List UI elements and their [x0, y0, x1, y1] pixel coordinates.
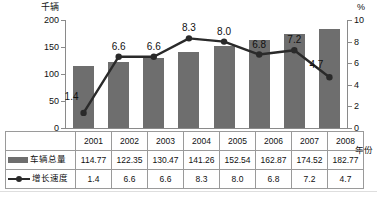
marker-2005 [221, 38, 227, 44]
point-label-2003: 6.6 [143, 41, 165, 52]
point-label-2004: 8.3 [178, 22, 200, 33]
cell-growth-2005: 8.0 [220, 170, 256, 189]
table-row-total-vehicles: 车辆总量 114.77 122.35 130.47 141.26 152.54 … [6, 151, 364, 170]
table-year-2005: 2005 [220, 132, 256, 151]
legend-item-total-vehicles: 车辆总量 [6, 151, 76, 170]
bar-swatch-icon [8, 157, 28, 163]
table-year-2008: 2008 [328, 132, 364, 151]
point-label-2007: 7.2 [283, 34, 305, 45]
cell-total-2006: 162.87 [256, 151, 292, 170]
marker-2003 [151, 54, 157, 60]
cell-growth-2008: 4.7 [328, 170, 364, 189]
legend-label-total-vehicles: 车辆总量 [30, 155, 66, 165]
cell-total-2005: 152.54 [220, 151, 256, 170]
marker-2006 [256, 51, 262, 57]
legend-label-growth-rate: 增长速度 [32, 174, 68, 184]
cell-growth-2001: 1.4 [76, 170, 112, 189]
marker-2004 [186, 35, 192, 41]
marker-2008 [326, 74, 332, 80]
bottom-edge-artifact [0, 191, 377, 192]
table-row-years: 2001 2002 2003 2004 2005 2006 2007 2008 [6, 132, 364, 151]
table-year-2001: 2001 [76, 132, 112, 151]
cell-total-2001: 114.77 [76, 151, 112, 170]
chart-figure: 千辆 % 200 150 100 50 0 10 8 6 4 2 0 [0, 0, 377, 198]
table-corner-cell [6, 132, 76, 151]
marker-2002 [115, 54, 121, 60]
table-year-2006: 2006 [256, 132, 292, 151]
cell-total-2003: 130.47 [148, 151, 184, 170]
point-label-2005: 8.0 [213, 26, 235, 37]
cell-total-2007: 174.52 [292, 151, 328, 170]
point-label-2006: 6.8 [248, 39, 270, 50]
line-marker-swatch-icon [8, 175, 30, 183]
cell-growth-2007: 7.2 [292, 170, 328, 189]
table-year-2007: 2007 [292, 132, 328, 151]
data-table: 2001 2002 2003 2004 2005 2006 2007 2008 … [5, 131, 364, 189]
table-year-2004: 2004 [184, 132, 220, 151]
table-year-2002: 2002 [112, 132, 148, 151]
point-label-2001: 1.4 [61, 91, 83, 102]
point-label-2008: 4.7 [305, 59, 327, 70]
legend-item-growth-rate: 增长速度 [6, 170, 76, 189]
cell-total-2008: 182.77 [328, 151, 364, 170]
cell-growth-2006: 6.8 [256, 170, 292, 189]
cell-total-2004: 141.26 [184, 151, 220, 170]
cell-total-2002: 122.35 [112, 151, 148, 170]
marker-2001 [80, 110, 86, 116]
cell-growth-2002: 6.6 [112, 170, 148, 189]
marker-2007 [291, 47, 297, 53]
cell-growth-2004: 8.3 [184, 170, 220, 189]
table-year-2003: 2003 [148, 132, 184, 151]
plot-area: 千辆 % 200 150 100 50 0 10 8 6 4 2 0 [0, 0, 377, 132]
cell-growth-2003: 6.6 [148, 170, 184, 189]
point-label-2002: 6.6 [108, 41, 130, 52]
table-row-growth-rate: 增长速度 1.4 6.6 6.6 8.3 8.0 6.8 7.2 4.7 [6, 170, 364, 189]
